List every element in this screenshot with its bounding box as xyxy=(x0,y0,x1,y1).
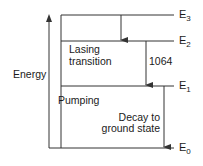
level-e3: E3 xyxy=(61,8,191,23)
energy-level-diagram: Energy E3 E2 E1 E0 Lasing transition 106… xyxy=(0,0,203,166)
pumping-label: Pumping xyxy=(58,94,100,106)
energy-axis xyxy=(46,14,61,148)
transition-label: transition xyxy=(69,55,112,67)
energy-axis-label: Energy xyxy=(13,68,47,80)
svg-text:E1: E1 xyxy=(179,79,191,94)
svg-text:E0: E0 xyxy=(179,141,191,156)
lasing-label: Lasing xyxy=(69,43,100,55)
decay-label-line2: ground state xyxy=(102,122,161,134)
svg-text:E2: E2 xyxy=(179,34,191,49)
arrow-up-icon xyxy=(46,14,52,22)
level-e1: E1 xyxy=(61,79,191,94)
level-e0: E0 xyxy=(61,141,191,156)
wavelength-label: 1064 xyxy=(149,55,173,67)
svg-text:E3: E3 xyxy=(179,8,191,23)
